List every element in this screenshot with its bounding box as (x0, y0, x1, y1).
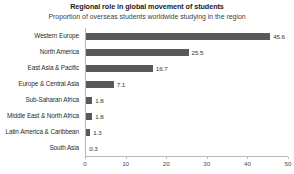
bar-value-label: 1.8 (95, 97, 103, 104)
x-tick-label: 50 (285, 160, 292, 167)
bar-value-label: 16.7 (156, 65, 168, 72)
category-label: Western Europe (0, 32, 79, 39)
bar-row: 25.5 (85, 49, 288, 56)
bar-row: 1.8 (85, 113, 288, 120)
x-tick-mark (207, 157, 208, 159)
x-axis-ticks: 01020304050 (85, 157, 288, 173)
bar-value-label: 25.5 (192, 49, 204, 56)
x-tick-label: 0 (83, 160, 86, 167)
chart-title: Regional role in global movement of stud… (0, 2, 294, 11)
category-label: East Asia & Pacific (0, 64, 79, 71)
x-tick-label: 40 (244, 160, 251, 167)
category-label: North America (0, 48, 79, 55)
bar-chart: Regional role in global movement of stud… (0, 0, 294, 174)
bar-value-label: 7.1 (117, 81, 125, 88)
bar-value-label: 0.3 (89, 145, 97, 152)
x-tick-label: 20 (163, 160, 170, 167)
bar-row: 1.8 (85, 97, 288, 104)
bar-row: 45.6 (85, 33, 288, 40)
category-label: Middle East & North Africa (0, 112, 79, 119)
category-label: Latin America & Caribbean (0, 128, 79, 135)
bar (85, 33, 270, 40)
plot-area: 45.625.516.77.11.81.81.30.3 (85, 28, 288, 156)
bar (85, 49, 189, 56)
bar-value-label: 1.8 (95, 113, 103, 120)
bar (85, 81, 114, 88)
category-label: Sub-Saharan Africa (0, 96, 79, 103)
x-tick-mark (288, 157, 289, 159)
bar-row: 1.3 (85, 129, 288, 136)
bar-value-label: 45.6 (273, 33, 285, 40)
x-tick-mark (166, 157, 167, 159)
bar (85, 97, 92, 104)
bar-row: 0.3 (85, 145, 288, 152)
category-axis-labels: Western EuropeNorth AmericaEast Asia & P… (0, 28, 82, 156)
chart-subtitle: Proportion of overseas students worldwid… (0, 12, 294, 21)
bar-row: 7.1 (85, 81, 288, 88)
bar (85, 113, 92, 120)
x-tick-label: 30 (203, 160, 210, 167)
y-axis-line (85, 28, 86, 156)
bar-value-label: 1.3 (93, 129, 101, 136)
bar (85, 65, 153, 72)
x-tick-mark (85, 157, 86, 159)
x-tick-mark (247, 157, 248, 159)
x-tick-label: 10 (122, 160, 129, 167)
bar-row: 16.7 (85, 65, 288, 72)
x-tick-mark (126, 157, 127, 159)
category-label: Europe & Central Asia (0, 80, 79, 87)
category-label: South Asia (0, 144, 79, 151)
